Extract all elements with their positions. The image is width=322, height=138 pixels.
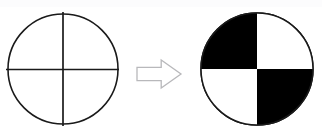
rightward-block-arrow-group bbox=[137, 60, 181, 88]
rightward-block-arrow-icon bbox=[137, 60, 181, 88]
diagram-canvas bbox=[0, 0, 322, 138]
checkered-quadrant-circle-group bbox=[201, 13, 313, 125]
result-circle-quadrant-bottom-left bbox=[201, 69, 257, 125]
result-circle-quadrant-top-left bbox=[201, 13, 257, 69]
result-circle-quadrant-top-right bbox=[257, 13, 313, 69]
quadrant-transformation-diagram bbox=[0, 0, 322, 138]
unshaded-quadrant-circle-group bbox=[6, 12, 119, 126]
result-circle-quadrant-bottom-right bbox=[257, 69, 313, 125]
